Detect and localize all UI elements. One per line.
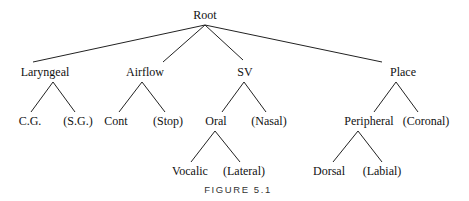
- node-sg: (S.G.): [63, 114, 92, 128]
- node-coronal: (Coronal): [403, 114, 450, 128]
- node-place: Place: [390, 65, 416, 79]
- node-airflow: Airflow: [126, 65, 164, 79]
- edge-root-laryngeal: [33, 25, 205, 62]
- edge-sv-nasal: [244, 82, 266, 112]
- node-nasal: (Nasal): [251, 114, 286, 128]
- node-stop: (Stop): [153, 114, 183, 128]
- figure-caption: FIGURE 5.1: [204, 184, 272, 195]
- feature-geometry-tree-diagram: Root Laryngeal Airflow SV Place C.G. (S.…: [0, 0, 469, 201]
- edge-place-peripheral: [374, 82, 396, 112]
- edge-airflow-cont: [119, 82, 142, 112]
- node-peripheral: Peripheral: [344, 114, 393, 128]
- edge-peripheral-dorsal: [333, 131, 358, 162]
- edge-root-place: [205, 25, 382, 62]
- node-cont: Cont: [104, 114, 127, 128]
- node-root: Root: [193, 8, 216, 22]
- edge-root-airflow: [163, 25, 205, 62]
- node-lateral: (Lateral): [223, 164, 265, 178]
- node-sv: SV: [237, 65, 252, 79]
- edge-laryngeal-cg: [31, 82, 53, 112]
- edge-peripheral-labial: [358, 131, 382, 162]
- edge-oral-vocalic: [191, 131, 215, 162]
- edge-airflow-stop: [142, 82, 165, 112]
- node-dorsal: Dorsal: [313, 164, 345, 178]
- node-oral: Oral: [205, 114, 226, 128]
- node-laryngeal: Laryngeal: [21, 65, 70, 79]
- edge-oral-lateral: [215, 131, 240, 162]
- edge-sv-oral: [222, 82, 244, 112]
- node-vocalic: Vocalic: [172, 164, 208, 178]
- edge-root-sv: [205, 25, 243, 60]
- node-cg: C.G.: [19, 114, 42, 128]
- edge-laryngeal-sg: [53, 82, 75, 112]
- edge-place-coronal: [396, 82, 418, 112]
- node-labial: (Labial): [363, 164, 402, 178]
